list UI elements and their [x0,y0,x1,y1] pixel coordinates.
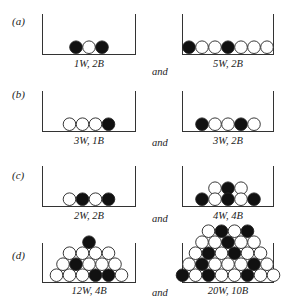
white-ball [209,41,222,54]
white-ball [183,258,196,271]
white-ball [209,118,222,131]
white-ball [196,41,209,54]
white-ball [267,269,280,282]
white-ball [196,236,209,249]
white-ball [235,41,248,54]
black-ball [83,236,96,249]
white-ball [222,258,235,271]
white-ball [248,118,261,131]
white-ball [63,118,76,131]
white-ball [189,269,202,282]
black-ball [196,258,209,271]
white-ball [228,269,241,282]
white-ball [248,41,261,54]
white-ball [89,118,102,131]
white-ball [109,258,122,271]
white-ball [96,258,109,271]
white-ball [248,236,261,249]
white-ball [261,41,274,54]
black-ball [202,247,215,260]
black-ball [222,236,235,249]
white-ball [228,225,241,238]
white-ball [189,247,202,260]
white-ball [209,236,222,249]
black-ball [248,258,261,271]
white-ball [235,258,248,271]
white-ball [63,193,76,206]
white-ball [215,269,228,282]
white-ball [235,236,248,249]
white-ball [63,269,76,282]
white-ball [115,269,128,282]
white-ball [254,269,267,282]
white-ball [57,258,70,271]
balls-layer [0,0,288,302]
white-ball [76,247,89,260]
white-ball [209,193,222,206]
black-ball [76,193,89,206]
black-ball [70,41,83,54]
black-ball [102,118,115,131]
black-ball [102,269,115,282]
black-ball [70,258,83,271]
black-ball [196,193,209,206]
black-ball [183,41,196,54]
white-ball [261,258,274,271]
black-ball [235,118,248,131]
white-ball [202,225,215,238]
black-ball [228,247,241,260]
white-ball [235,193,248,206]
white-ball [215,247,228,260]
black-ball [241,269,254,282]
black-ball [96,41,109,54]
black-ball [196,118,209,131]
black-ball [241,225,254,238]
white-ball [76,118,89,131]
black-ball [102,193,115,206]
black-ball [248,193,261,206]
white-ball [50,269,63,282]
white-ball [83,258,96,271]
white-ball [83,41,96,54]
white-ball [102,247,115,260]
white-ball [209,258,222,271]
white-ball [241,247,254,260]
black-ball [202,269,215,282]
black-ball [222,41,235,54]
white-ball [63,247,76,260]
black-ball [89,269,102,282]
black-ball [215,225,228,238]
white-ball [89,247,102,260]
black-ball [176,269,189,282]
white-ball [76,269,89,282]
white-ball [254,247,267,260]
black-ball [222,193,235,206]
white-ball [222,118,235,131]
white-ball [89,193,102,206]
